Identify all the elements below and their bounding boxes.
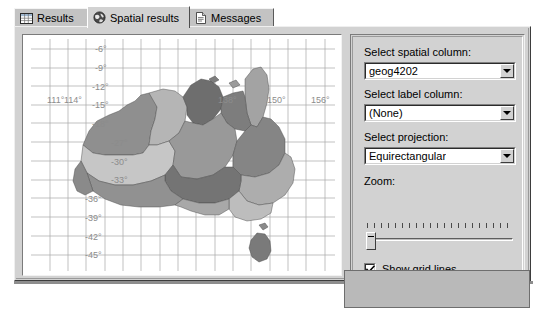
- zoom-label: Zoom:: [364, 175, 395, 187]
- svg-text:156°: 156°: [311, 95, 330, 105]
- zoom-slider-thumb[interactable]: [366, 232, 376, 250]
- svg-text:150°: 150°: [267, 95, 286, 105]
- tab-spatial-results[interactable]: Spatial results: [87, 6, 190, 28]
- svg-text:-36°: -36°: [85, 194, 102, 204]
- tab-content-inner: 111° 114° 138° 150° 156° -6° -9° -12° -1…: [16, 28, 529, 279]
- spatial-column-combobox[interactable]: geog4202: [364, 62, 516, 80]
- svg-text:-30°: -30°: [111, 157, 128, 167]
- svg-text:-39°: -39°: [85, 213, 102, 223]
- document-list-icon: [195, 12, 207, 24]
- svg-text:-42°: -42°: [85, 232, 102, 242]
- map-canvas[interactable]: 111° 114° 138° 150° 156° -6° -9° -12° -1…: [23, 35, 341, 275]
- map-viewport[interactable]: 111° 114° 138° 150° 156° -6° -9° -12° -1…: [22, 34, 342, 276]
- svg-text:-12°: -12°: [92, 82, 109, 92]
- chevron-down-icon[interactable]: [500, 64, 514, 78]
- svg-text:-45°: -45°: [85, 250, 102, 260]
- tab-content-panel: 111° 114° 138° 150° 156° -6° -9° -12° -1…: [14, 26, 531, 281]
- projection-combobox[interactable]: Equirectangular: [364, 147, 516, 165]
- label-column-label: Select label column:: [364, 88, 462, 100]
- zoom-slider-ticks: [367, 223, 513, 229]
- zoom-slider[interactable]: [364, 223, 516, 251]
- spatial-column-label: Select spatial column:: [364, 46, 471, 58]
- svg-text:111°: 111°: [47, 95, 65, 105]
- svg-text:114°: 114°: [64, 95, 82, 105]
- map-regions: [73, 67, 295, 262]
- chevron-down-icon[interactable]: [500, 149, 514, 163]
- spatial-options-inner: Select spatial column: geog4202 Select l…: [352, 36, 523, 274]
- chevron-down-icon[interactable]: [500, 106, 514, 120]
- table-grid-icon: [20, 13, 33, 24]
- map-svg: 111° 114° 138° 150° 156° -6° -9° -12° -1…: [23, 35, 341, 275]
- label-column-combobox[interactable]: (None): [364, 104, 516, 122]
- tab-results[interactable]: Results: [14, 8, 88, 27]
- projection-value: Equirectangular: [366, 150, 446, 162]
- svg-text:-15°: -15°: [92, 100, 109, 110]
- svg-text:-6°: -6°: [95, 44, 107, 54]
- tab-strip: Results Spatial results: [14, 6, 531, 27]
- spatial-column-value: geog4202: [366, 65, 418, 77]
- background-panel-block: [344, 270, 530, 308]
- globe-icon: [93, 11, 106, 24]
- label-column-value: (None): [366, 107, 403, 119]
- zoom-slider-track[interactable]: [367, 238, 513, 241]
- svg-text:-33°: -33°: [111, 175, 128, 185]
- spatial-options-group: Select spatial column: geog4202 Select l…: [350, 34, 525, 276]
- tab-results-label: Results: [37, 12, 74, 24]
- tab-spatial-results-label: Spatial results: [110, 12, 179, 24]
- spatial-results-window: Results Spatial results: [0, 0, 545, 317]
- svg-text:-18°: -18°: [92, 119, 109, 129]
- tab-messages-label: Messages: [211, 12, 261, 24]
- svg-text:138°: 138°: [218, 95, 237, 105]
- tab-messages[interactable]: Messages: [189, 8, 274, 27]
- svg-text:-9°: -9°: [95, 63, 107, 73]
- svg-text:-27°: -27°: [111, 138, 128, 148]
- projection-label: Select projection:: [364, 131, 448, 143]
